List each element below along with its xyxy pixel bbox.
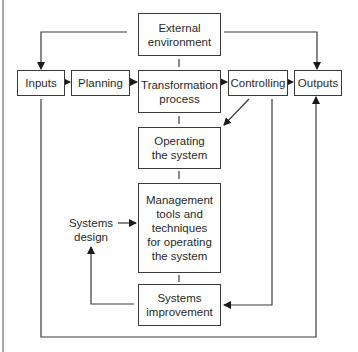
arrow-external-to-inputs: [41, 32, 127, 69]
node-operating-the-system: Operating the system: [138, 127, 221, 169]
arrow-controlling-to-operating: [224, 99, 249, 125]
node-external-environment: External environment: [138, 13, 221, 56]
operations-system-diagram: External environment Inputs Planning Tra…: [0, 0, 358, 352]
arrow-improvement-to-design: [91, 247, 134, 304]
label-systems-design: Systems design: [62, 216, 120, 244]
arrow-external-to-outputs: [224, 32, 317, 69]
node-controlling: Controlling: [228, 70, 288, 96]
node-planning: Planning: [71, 70, 130, 96]
node-systems-improvement: Systems improvement: [138, 284, 221, 326]
node-outputs: Outputs: [294, 70, 342, 96]
node-management-tools: Management tools and techniques for oper…: [138, 183, 221, 273]
node-inputs: Inputs: [17, 70, 65, 96]
arrow-controlling-to-improvement: [224, 99, 272, 305]
node-transformation-process: Transformation process: [138, 70, 221, 113]
